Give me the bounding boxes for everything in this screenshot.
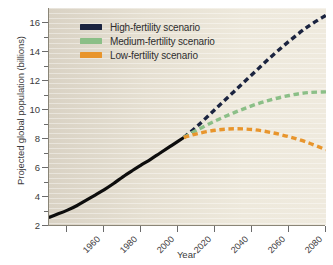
- population-projection-chart: Projected global population (billions) 2…: [0, 0, 333, 265]
- legend-item-low[interactable]: Low-fertility scenario: [80, 48, 250, 62]
- legend-label: High-fertility scenario: [110, 22, 200, 33]
- legend-swatch-low-icon: [80, 52, 102, 58]
- chart-legend: High-fertility scenarioMedium-fertility …: [80, 20, 250, 62]
- legend-item-high[interactable]: High-fertility scenario: [80, 20, 250, 34]
- legend-swatch-high-icon: [80, 24, 102, 30]
- legend-label: Medium-fertility scenario: [110, 36, 215, 47]
- legend-label: Low-fertility scenario: [110, 50, 198, 61]
- x-axis-title: Year: [48, 249, 325, 260]
- legend-swatch-medium-icon: [80, 38, 102, 44]
- legend-item-medium[interactable]: Medium-fertility scenario: [80, 34, 250, 48]
